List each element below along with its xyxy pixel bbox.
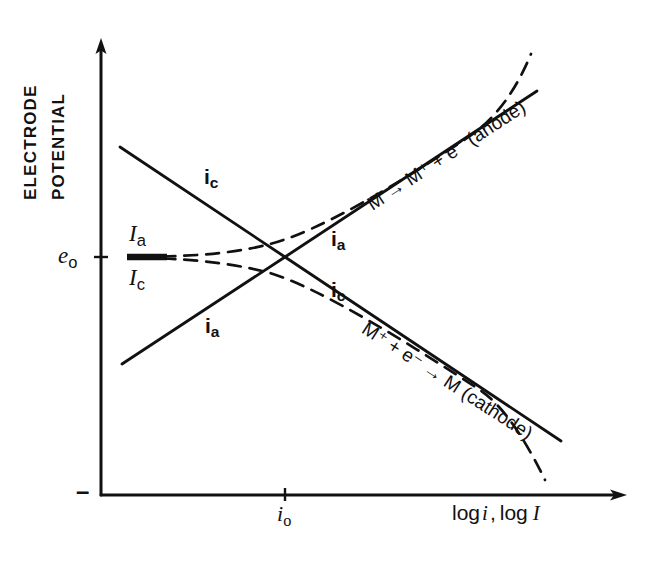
x-axis-label-log1: log (452, 501, 480, 524)
net-cathodic-label: Ic (129, 266, 145, 293)
e0-subscript: o (68, 253, 77, 272)
net-anodic-curve (162, 54, 531, 257)
ic-right-subscript: c (337, 287, 346, 304)
y-axis-negative-marker: – (76, 479, 89, 503)
y-axis-tick-label-e0: eo (58, 244, 77, 271)
anodic-tafel-label-right: ia (331, 228, 345, 253)
cathodic-tafel-label-right: ic (331, 279, 345, 304)
net-cathodic-curve (162, 259, 545, 481)
x-axis-label-comma: , (490, 501, 496, 524)
x-axis-label: logi,logI (452, 502, 540, 524)
Ia-symbol: I (129, 221, 137, 246)
x-axis-label-I: I (528, 501, 540, 525)
x-axis-label-i: i (480, 501, 490, 525)
x-axis-label-log2: log (496, 501, 528, 524)
x-axis (101, 490, 627, 501)
y-axis-title-line2: POTENTIAL (50, 93, 67, 200)
ia-left-subscript: a (211, 323, 220, 340)
cathodic-tafel-label-left: ic (204, 166, 218, 191)
y-axis (96, 38, 107, 495)
Ic-symbol: I (129, 265, 137, 290)
e0-symbol: e (58, 243, 68, 268)
Ia-subscript: a (137, 231, 146, 250)
ia-right-subscript: a (337, 236, 346, 253)
x-axis-tick-label-i0: io (277, 503, 291, 529)
y-axis-title-line1: ELECTRODE (22, 84, 39, 200)
i0-subscript: o (283, 511, 291, 530)
plot-canvas (0, 0, 652, 570)
evans-diagram-figure: ELECTRODE POTENTIAL eo – io logi,logI ic… (0, 0, 652, 570)
y-axis-title: ELECTRODE (22, 84, 39, 200)
ic-left-subscript: c (210, 174, 219, 191)
y-axis-title-second: POTENTIAL (50, 93, 67, 200)
Ic-subscript: c (137, 275, 145, 294)
anodic-tafel-label-left: ia (205, 315, 219, 340)
net-anodic-label: Ia (129, 222, 146, 249)
